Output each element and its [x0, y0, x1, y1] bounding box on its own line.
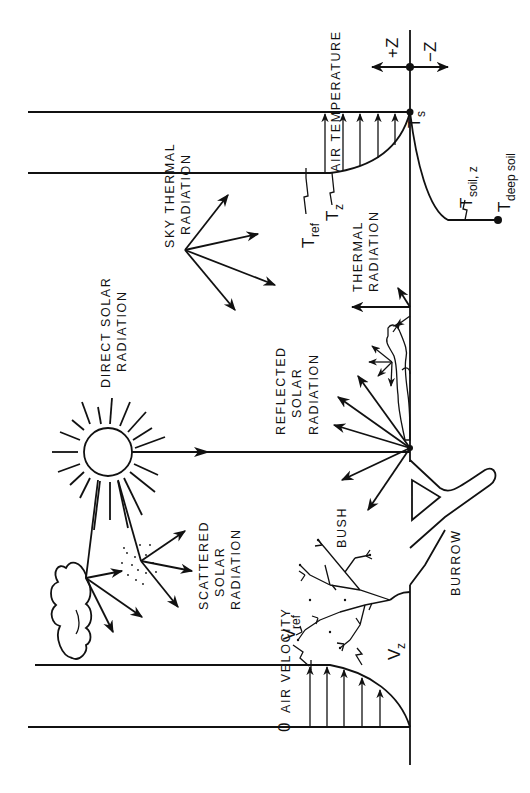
- thermal-radiation-label-2: RADIATION: [367, 210, 381, 292]
- svg-text:T: T: [323, 211, 342, 221]
- air-temperature-label: AIR TEMPERATURE: [329, 30, 343, 172]
- svg-text:z: z: [332, 204, 346, 210]
- sun-icon: [52, 398, 165, 530]
- reflected-solar-radiation-arrows: [334, 376, 413, 510]
- thermal-radiation-label-1: THERMAL: [351, 221, 365, 292]
- svg-text:ref: ref: [289, 614, 303, 629]
- burrow-label: BURROW: [449, 529, 463, 596]
- sky-thermal-radiation-arrows: [185, 195, 275, 310]
- v-z-label: V z: [385, 643, 408, 660]
- sky-thermal-label-2: RADIATION: [179, 153, 193, 235]
- scattered-label-3: RADIATION: [229, 528, 243, 610]
- scattered-rays: [86, 480, 192, 632]
- svg-text:ref: ref: [308, 222, 322, 237]
- svg-text:T: T: [299, 238, 318, 248]
- animal-figure: [387, 325, 410, 440]
- air-temperature-profile: [28, 109, 414, 215]
- microclimate-diagram: +Z −Z AIR TEMPERATURE T s T ref T z T so…: [0, 0, 530, 793]
- svg-text:T: T: [405, 118, 424, 128]
- svg-text:deep soil: deep soil: [504, 153, 518, 201]
- zero-label: 0: [275, 723, 294, 732]
- svg-text:soil, z: soil, z: [466, 166, 480, 197]
- svg-text:T: T: [495, 202, 514, 212]
- t-soil-z-label: T soil, z: [457, 166, 480, 208]
- scatter-particles: [121, 544, 157, 585]
- svg-text:s: s: [414, 111, 428, 117]
- plus-z-label: +Z: [383, 38, 402, 58]
- reflected-label-2: SOLAR: [290, 368, 304, 418]
- reflected-label-3: RADIATION: [307, 353, 321, 435]
- cloud-icon: [51, 563, 91, 659]
- svg-text:T: T: [457, 198, 476, 208]
- reflected-label-1: REFLECTED: [274, 346, 288, 435]
- svg-text:z: z: [394, 643, 408, 649]
- t-deep-soil-label: T deep soil: [495, 153, 518, 212]
- t-ref-label: T ref: [299, 222, 322, 248]
- z-axis-marker: [372, 63, 448, 71]
- air-velocity-profile: [28, 645, 410, 727]
- direct-solar-label-2: RADIATION: [115, 290, 129, 372]
- minus-z-label: −Z: [421, 42, 440, 62]
- t-z-label: T z: [323, 204, 346, 221]
- direct-solar-ray: [132, 447, 410, 457]
- sky-thermal-label-1: SKY THERMAL: [163, 143, 177, 248]
- scattered-label-2: SOLAR: [213, 547, 227, 597]
- direct-solar-label-1: DIRECT SOLAR: [99, 277, 113, 388]
- bush-icon: [296, 539, 410, 651]
- scattered-label-1: SCATTERED: [197, 521, 211, 610]
- bush-label: BUSH: [335, 507, 349, 548]
